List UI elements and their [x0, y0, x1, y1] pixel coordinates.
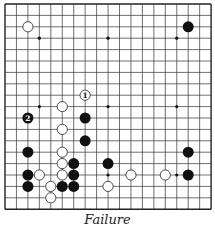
go-board: 12 [0, 0, 215, 212]
star-point [175, 37, 178, 40]
white-stone-1: 1 [80, 90, 90, 100]
white-stone [57, 147, 67, 157]
star-point [175, 105, 178, 108]
black-stone [57, 181, 68, 192]
star-point [106, 37, 109, 40]
white-stone [46, 181, 56, 191]
star-point [38, 105, 41, 108]
black-stone [80, 135, 91, 146]
star-point [106, 173, 109, 176]
black-stone [22, 181, 33, 192]
star-point [106, 105, 109, 108]
black-stone [183, 147, 194, 158]
white-stone [46, 193, 56, 203]
white-stone [160, 170, 170, 180]
star-point [175, 173, 178, 176]
white-stone [126, 170, 136, 180]
black-stone [68, 181, 79, 192]
black-stone-2: 2 [22, 113, 33, 124]
white-stone [57, 102, 67, 112]
black-stone [22, 170, 33, 181]
black-stone [183, 170, 194, 181]
white-stone [57, 124, 67, 134]
black-stone [22, 147, 33, 158]
diagram-caption: Failure [0, 212, 215, 227]
black-stone [103, 158, 114, 169]
move-number: 2 [25, 114, 30, 123]
black-stone [80, 113, 91, 124]
black-stone [183, 21, 194, 32]
white-stone [34, 170, 44, 180]
black-stone [68, 158, 79, 169]
white-stone [57, 159, 67, 169]
black-stone [68, 170, 79, 181]
star-point [38, 37, 41, 40]
white-stone [103, 181, 113, 191]
white-stone [57, 170, 67, 180]
move-number: 1 [83, 91, 88, 100]
white-stone [23, 22, 33, 32]
